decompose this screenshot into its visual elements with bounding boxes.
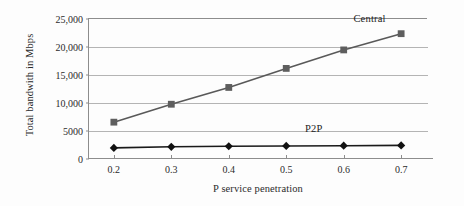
x-axis-tick-label: 0.4 xyxy=(223,164,236,175)
gridline xyxy=(89,47,428,48)
x-axis-tick-label: 0.3 xyxy=(165,164,178,175)
x-axis-tick-label: 0.2 xyxy=(108,164,121,175)
x-axis-tick-mark xyxy=(286,155,287,159)
y-axis-tick-label: 10,000 xyxy=(56,98,90,109)
x-axis-tick-mark xyxy=(171,155,172,159)
gridline xyxy=(89,75,428,76)
plot-area: 0500010,00015,00020,00025,000 xyxy=(88,18,427,158)
x-axis-tick-label: 0.6 xyxy=(337,164,350,175)
x-axis-tick-mark xyxy=(229,155,230,159)
chart-figure: Total bandwith in Mbps 0500010,00015,000… xyxy=(0,0,464,206)
y-axis-tick-label: 20,000 xyxy=(56,42,90,53)
x-axis-tick-mark xyxy=(114,155,115,159)
x-axis-tick-label: 0.7 xyxy=(395,164,408,175)
x-axis-title: P service penetration xyxy=(88,183,428,194)
y-axis-tick-label: 25,000 xyxy=(56,14,90,25)
series-label-p2p: P2P xyxy=(305,123,323,134)
gridline xyxy=(89,131,428,132)
x-axis-tick-label: 0.5 xyxy=(280,164,293,175)
y-axis-tick-label: 0 xyxy=(78,154,89,165)
gridline xyxy=(89,103,428,104)
series-label-central: Central xyxy=(353,13,385,24)
x-axis-tick-mark xyxy=(401,155,402,159)
y-axis-tick-label: 5000 xyxy=(63,126,89,137)
y-axis-tick-label: 15,000 xyxy=(56,70,90,81)
x-axis-line xyxy=(88,158,433,159)
x-axis-tick-mark xyxy=(344,155,345,159)
